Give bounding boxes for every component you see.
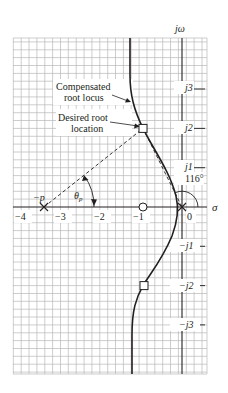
y-tick-neg-j2: −j2 [179,280,194,291]
theta-p-label: θp [74,190,83,203]
zero-marker [139,203,147,211]
angle-116-label: 116° [185,173,204,184]
desired-root-upper [139,124,147,132]
compensated-label-line1: Compensated [56,81,110,92]
real-axis-label: σ [212,201,218,213]
x-tick-neg3: −3 [55,211,66,222]
y-tick-j3: j3 [183,82,193,93]
y-tick-neg-j1: −j1 [179,240,194,251]
x-tick-neg2: −2 [94,211,105,222]
y-tick-j2: j2 [183,122,193,133]
x-tick-neg4: −4 [15,211,26,222]
y-tick-neg-j3: −j3 [179,319,194,330]
desired-root-lower [140,282,148,290]
pole-p-label: −p [33,192,45,203]
desired-label-line2: location [71,123,103,134]
imag-axis-label: jω [173,23,185,34]
desired-label-line1: Desired root [58,112,108,123]
x-tick-0: 0 [187,211,192,222]
compensated-label-line2: root locus [64,92,104,103]
root-locus-diagram: jω σ −4 −3 −2 −1 0 j3 j2 j1 −j1 −j2 −j3 … [0,0,228,393]
y-tick-j1: j1 [183,161,193,172]
x-tick-neg1: −1 [133,211,144,222]
